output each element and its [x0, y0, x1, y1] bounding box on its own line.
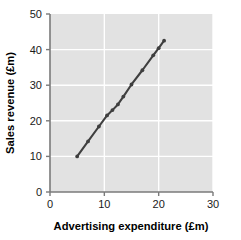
y-tick-label: 10 [30, 150, 42, 162]
x-tick-label: 20 [153, 198, 165, 210]
y-axis-title: Sales revenue (£m) [4, 52, 16, 154]
scatter-chart: 01020304050 0102030 Advertising expendit… [0, 0, 241, 240]
x-tick-label: 10 [98, 198, 110, 210]
x-tick-label: 0 [47, 198, 53, 210]
x-tick-label: 30 [207, 198, 219, 210]
y-tick-label: 0 [36, 186, 42, 198]
y-tick-label: 30 [30, 79, 42, 91]
y-tick-label: 40 [30, 44, 42, 56]
y-tick-label: 50 [30, 8, 42, 20]
chart-canvas: 01020304050 0102030 Advertising expendit… [0, 0, 241, 240]
y-tick-label: 20 [30, 115, 42, 127]
x-axis-title: Advertising expenditure (£m) [54, 220, 209, 232]
plot-area-background [50, 14, 213, 192]
